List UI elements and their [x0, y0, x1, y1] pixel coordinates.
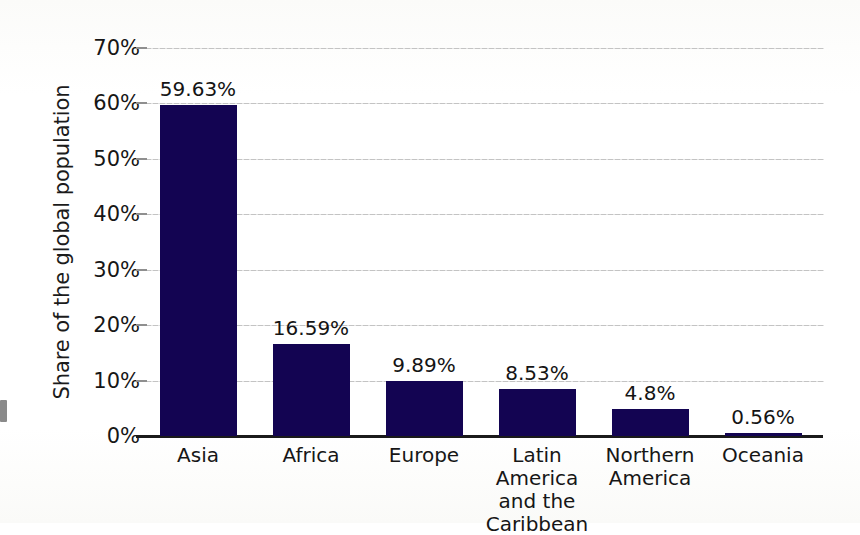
bar-value-label: 16.59% [273, 316, 349, 340]
bar-value-label: 59.63% [160, 77, 236, 101]
bar[interactable] [160, 105, 237, 436]
x-axis-category-label: Northern America [588, 444, 713, 490]
x-axis-category-label: Africa [249, 444, 374, 467]
bar[interactable] [725, 433, 802, 436]
x-axis-category-label: Asia [136, 444, 261, 467]
x-axis-category-label: Europe [362, 444, 487, 467]
bar-value-label: 8.53% [505, 361, 569, 385]
bar[interactable] [273, 344, 350, 436]
x-axis-category-label: Latin America and the Caribbean [475, 444, 600, 535]
bar[interactable] [499, 389, 576, 436]
bar-value-label: 9.89% [392, 353, 456, 377]
bar-value-label: 4.8% [625, 381, 676, 405]
bar[interactable] [612, 409, 689, 436]
bar-value-label: 0.56% [731, 405, 795, 429]
bar[interactable] [386, 381, 463, 436]
x-axis-category-label: Oceania [701, 444, 826, 467]
